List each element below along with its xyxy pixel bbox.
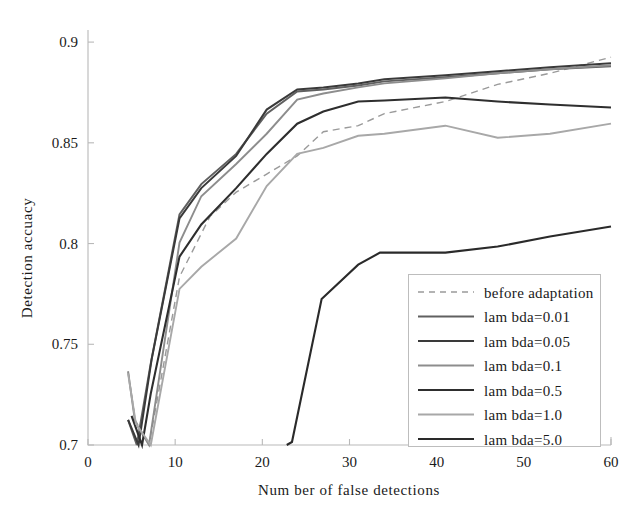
legend-label-5: lam bda=1.0: [484, 407, 562, 423]
legend-label-4: lam bda=0.5: [484, 383, 562, 399]
y-tick-label: 0.7: [59, 437, 78, 453]
legend-label-2: lam bda=0.05: [484, 334, 570, 350]
y-axis-label: Detection accuacy: [19, 198, 35, 319]
x-tick-label: 0: [84, 454, 92, 470]
y-tick-label: 0.9: [59, 34, 78, 50]
y-tick-label: 0.75: [52, 336, 78, 352]
line-chart: 0102030405060 0.70.750.80.850.9 Num ber …: [0, 0, 631, 517]
x-axis-label: Num ber of false detections: [258, 482, 440, 498]
x-tick-label: 40: [429, 454, 444, 470]
legend-label-0: before adaptation: [484, 285, 594, 301]
chart-legend: before adaptationlam bda=0.01lam bda=0.0…: [409, 275, 601, 448]
y-tick-label: 0.85: [52, 135, 78, 151]
x-tick-label: 10: [168, 454, 183, 470]
x-tick-label: 60: [604, 454, 619, 470]
x-tick-label: 20: [255, 454, 270, 470]
legend-label-1: lam bda=0.01: [484, 309, 570, 325]
chart-figure: 0102030405060 0.70.750.80.850.9 Num ber …: [0, 0, 631, 517]
x-tick-label: 30: [342, 454, 357, 470]
legend-label-6: lam bda=5.0: [484, 432, 562, 448]
y-tick-label: 0.8: [59, 236, 78, 252]
x-tick-label: 50: [516, 454, 531, 470]
legend-label-3: lam bda=0.1: [484, 358, 562, 374]
